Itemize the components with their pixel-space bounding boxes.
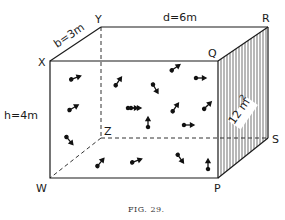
molecule-arrow-icon <box>175 152 185 164</box>
molecule-arrow-icon <box>146 117 150 129</box>
molecule-arrow-icon <box>169 63 181 73</box>
vertex-label-R: R <box>262 12 270 25</box>
molecule-arrow-icon <box>202 100 213 111</box>
vertex-label-X: X <box>38 56 46 69</box>
vertex-label-Q: Q <box>208 47 217 60</box>
molecule-arrow-icon <box>130 157 142 165</box>
hidden-edge-ZW <box>50 138 101 178</box>
gas-molecules <box>64 63 213 171</box>
molecule-arrow-icon <box>150 82 159 94</box>
vertex-label-W: W <box>36 182 47 195</box>
vertex-label-P: P <box>214 182 221 195</box>
vertex-label-S: S <box>272 133 279 146</box>
molecule-arrow-icon <box>194 76 206 80</box>
molecule-arrow-icon <box>182 123 194 127</box>
depth-label: d=6m <box>163 11 197 24</box>
edge-QR <box>218 27 268 61</box>
vertex-label-Z: Z <box>104 125 112 138</box>
molecule-arrow-icon <box>67 103 79 112</box>
edge-SP <box>218 138 268 178</box>
molecule-arrow-icon <box>69 74 81 82</box>
molecule-arrow-icon <box>170 102 180 114</box>
height-label: h=4m <box>4 109 38 122</box>
molecule-arrow-icon <box>64 134 75 145</box>
vertex-label-Y: Y <box>94 13 102 26</box>
molecule-arrow-icon <box>113 76 123 88</box>
breadth-label: b=3m <box>51 21 86 51</box>
figure-caption: FIG. 29. <box>128 205 165 214</box>
molecule-arrow-icon <box>95 157 106 168</box>
molecule-arrow-icon <box>206 159 210 171</box>
kinetic-gas-box-diagram: X Y Q R Z S W P b=3m d=6m h=4m 12 m 2 FI… <box>0 0 285 220</box>
